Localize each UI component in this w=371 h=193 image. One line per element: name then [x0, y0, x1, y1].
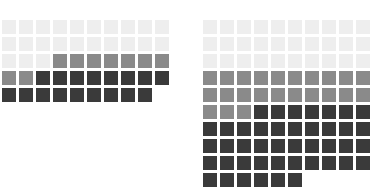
- waffle-cell: [138, 88, 152, 102]
- waffle-row: [2, 88, 169, 102]
- waffle-cell: [104, 37, 118, 51]
- waffle-cell: [87, 37, 101, 51]
- waffle-cell: [237, 54, 251, 68]
- waffle-cell: [220, 139, 234, 153]
- waffle-cell: [305, 88, 319, 102]
- waffle-row: [203, 20, 370, 37]
- waffle-cell: [155, 54, 169, 68]
- waffle-cell: [155, 20, 169, 34]
- waffle-cell: [305, 122, 319, 136]
- waffle-cell: [220, 173, 234, 187]
- waffle-cell: [339, 71, 353, 85]
- waffle-row: [2, 54, 169, 71]
- waffle-cell: [254, 20, 268, 34]
- waffle-chart-left: [2, 20, 169, 102]
- waffle-cell: [271, 37, 285, 51]
- waffle-cell: [121, 20, 135, 34]
- waffle-cell: [87, 71, 101, 85]
- waffle-cell: [339, 105, 353, 119]
- waffle-cell: [305, 54, 319, 68]
- waffle-cell: [288, 54, 302, 68]
- waffle-cell: [322, 139, 336, 153]
- waffle-cell: [305, 105, 319, 119]
- waffle-cell: [70, 88, 84, 102]
- waffle-row: [203, 139, 370, 156]
- waffle-cell: [53, 88, 67, 102]
- waffle-cell: [36, 88, 50, 102]
- waffle-cell: [36, 54, 50, 68]
- waffle-cell: [203, 156, 217, 170]
- waffle-cell: [19, 20, 33, 34]
- waffle-cell: [53, 71, 67, 85]
- waffle-cell: [203, 88, 217, 102]
- waffle-cell: [2, 71, 16, 85]
- waffle-cell: [322, 122, 336, 136]
- waffle-cell: [356, 20, 370, 34]
- waffle-cell: [322, 88, 336, 102]
- waffle-cell: [121, 88, 135, 102]
- waffle-cell: [288, 37, 302, 51]
- waffle-cell: [203, 71, 217, 85]
- waffle-cell: [220, 156, 234, 170]
- waffle-cell: [237, 156, 251, 170]
- waffle-cell: [138, 37, 152, 51]
- waffle-cell: [237, 105, 251, 119]
- waffle-cell: [19, 88, 33, 102]
- waffle-cell: [322, 71, 336, 85]
- waffle-cell: [203, 139, 217, 153]
- waffle-cell: [288, 20, 302, 34]
- waffle-cell: [19, 71, 33, 85]
- waffle-cell: [70, 37, 84, 51]
- waffle-row: [203, 37, 370, 54]
- waffle-cell: [203, 37, 217, 51]
- waffle-cell: [203, 173, 217, 187]
- waffle-cell: [356, 71, 370, 85]
- waffle-row: [2, 37, 169, 54]
- waffle-cell: [271, 122, 285, 136]
- waffle-cell: [2, 37, 16, 51]
- waffle-cell: [104, 71, 118, 85]
- waffle-cell: [254, 156, 268, 170]
- waffle-cell: [305, 20, 319, 34]
- waffle-cell: [339, 139, 353, 153]
- waffle-row: [203, 105, 370, 122]
- waffle-cell: [288, 105, 302, 119]
- waffle-cell: [356, 54, 370, 68]
- waffle-cell: [220, 105, 234, 119]
- waffle-cell: [87, 88, 101, 102]
- waffle-cell: [254, 54, 268, 68]
- waffle-cell: [339, 37, 353, 51]
- waffle-row: [203, 54, 370, 71]
- waffle-cell: [356, 88, 370, 102]
- waffle-cell: [237, 122, 251, 136]
- waffle-cell: [104, 20, 118, 34]
- waffle-cell: [36, 37, 50, 51]
- waffle-cell: [339, 88, 353, 102]
- waffle-cell: [36, 71, 50, 85]
- waffle-cell: [237, 37, 251, 51]
- waffle-cell: [271, 71, 285, 85]
- waffle-cell: [220, 122, 234, 136]
- waffle-cell: [237, 139, 251, 153]
- waffle-cell: [220, 37, 234, 51]
- waffle-cell: [305, 37, 319, 51]
- waffle-cell: [70, 20, 84, 34]
- waffle-cell: [254, 122, 268, 136]
- waffle-cell: [203, 122, 217, 136]
- waffle-cell: [121, 37, 135, 51]
- waffle-cell: [271, 139, 285, 153]
- waffle-cell: [53, 20, 67, 34]
- waffle-cell: [203, 105, 217, 119]
- waffle-cell: [356, 139, 370, 153]
- waffle-row: [203, 156, 370, 173]
- waffle-cell: [271, 173, 285, 187]
- waffle-chart-canvas: [0, 0, 371, 193]
- waffle-cell: [356, 122, 370, 136]
- waffle-cell: [138, 20, 152, 34]
- waffle-cell: [203, 20, 217, 34]
- waffle-cell: [2, 54, 16, 68]
- waffle-cell: [237, 88, 251, 102]
- waffle-row: [203, 173, 370, 187]
- waffle-cell: [121, 71, 135, 85]
- waffle-cell: [254, 88, 268, 102]
